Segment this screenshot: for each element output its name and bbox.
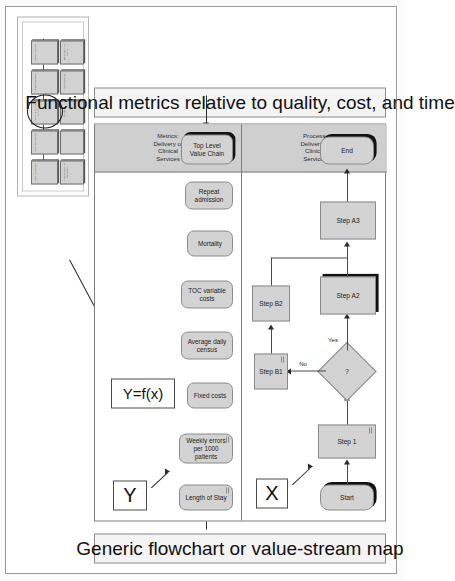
marker-y-text: Y	[123, 484, 136, 507]
connector-decision-no	[290, 371, 326, 372]
metric-pill-repeat-admission: Repeat admission	[185, 182, 233, 210]
metric-pill-toc-variable-costs: TOC variable costs	[181, 281, 233, 309]
flow-node-start: Start	[320, 485, 374, 511]
metric-label-line: patients	[195, 453, 217, 460]
metric-label-line: Value Chain	[190, 150, 224, 157]
inset-node-label: Human Resources	[63, 73, 66, 93]
inset-node: Talent Acquisition Control	[60, 41, 84, 65]
metric-label: Fixed costs	[194, 392, 226, 400]
metrics-caption-banner: Functional metrics relative to quality, …	[94, 88, 386, 118]
metric-label-line: Fixed costs	[194, 392, 226, 399]
metric-pill-average-daily-census: Average daily census	[181, 332, 233, 360]
flow-node-label: Step A2	[336, 292, 359, 300]
swimlane-container: Metrics: Delivery of Clinical Services P…	[94, 124, 386, 522]
connector-start-to-step1	[347, 463, 348, 485]
flow-node-step-b2: Step B2	[252, 286, 290, 322]
metric-pill-fixed-costs: Fixed costs	[187, 383, 233, 409]
connector-b1-to-b2	[271, 328, 272, 354]
metric-label: TOC variable costs	[188, 287, 226, 303]
inset-node-label: Manage and Collect	[34, 73, 37, 93]
metric-pill-mortality: Mortality	[187, 231, 233, 257]
metric-label: Average daily census	[188, 338, 227, 354]
inset-node-label: Assess Financials	[34, 43, 37, 63]
metric-label-line: per 1000	[193, 445, 218, 452]
inset-node-label: View of the Customer	[34, 163, 37, 183]
lane-label-line: Services	[156, 156, 180, 163]
connector-b2-merge-v	[271, 258, 347, 259]
metric-note-mark	[226, 437, 230, 443]
connector-b2-merge-h	[271, 258, 272, 286]
connector-step1-to-decision	[347, 399, 348, 425]
process-caption-text: Generic flowchart or value-stream map	[76, 538, 403, 560]
metric-pill-weekly-errors: Weekly errors per 1000 patients	[179, 434, 233, 464]
marker-y-box: Y	[113, 481, 147, 511]
flow-node-step-a3: Step A3	[320, 202, 376, 240]
metrics-caption-pointer	[206, 96, 207, 124]
flow-node-label: Start	[340, 494, 354, 502]
metrics-caption-text: Functional metrics relative to quality, …	[25, 92, 454, 114]
flow-node-label: End	[341, 147, 353, 155]
metric-label-line: Length of Stay	[185, 494, 226, 501]
lane-body-metrics: Y Y=f(x) Length of Stay	[95, 173, 241, 521]
inset-node-label: Select and Develop	[34, 133, 37, 153]
marker-relation-box: Y=f(x)	[111, 379, 175, 409]
marker-y-pointer	[151, 472, 168, 488]
flow-node-label: Step A3	[336, 217, 359, 225]
document-frame: View of the Customer Select and Develop …	[5, 6, 397, 574]
metric-pill-length-of-stay: Length of Stay	[179, 485, 233, 511]
metric-label-line: admission	[195, 196, 224, 203]
metric-label: Weekly errors per 1000 patients	[186, 437, 225, 461]
flow-node-label: Step B2	[259, 300, 282, 308]
flow-node-end: End	[320, 137, 374, 165]
metric-label-line: Average daily	[188, 338, 227, 345]
metric-label-line: Repeat	[199, 188, 220, 195]
lane-body-process: X Start Step 1	[242, 173, 387, 521]
flow-node-step-a2: Step A2	[320, 277, 376, 315]
marker-x-box: X	[256, 479, 288, 509]
flow-node-note-mark	[281, 357, 285, 363]
metric-pill-top-level-value-chain: Top Level Value Chain	[181, 135, 233, 165]
connector-a2-to-a3	[347, 245, 348, 277]
metric-label-line: census	[197, 346, 217, 353]
flow-node-step-1: Step 1	[318, 425, 376, 459]
flow-node-note-mark	[369, 428, 373, 434]
inset-node: Assess Financials	[31, 41, 58, 65]
inset-node: Financial Reporting and Analysis	[60, 161, 84, 185]
flow-node-label: ?	[345, 368, 349, 375]
lane-header-metrics-label: Metrics: Delivery of Clinical Services	[153, 133, 182, 163]
inset-node	[60, 131, 84, 155]
metric-label-line: costs	[200, 295, 215, 302]
metric-label-line: Top Level	[193, 142, 220, 149]
marker-x-pointer	[292, 468, 310, 485]
metric-note-mark	[226, 488, 230, 494]
metric-label-line: Weekly errors	[186, 437, 225, 444]
lane-label-line: Delivery of	[153, 140, 182, 147]
connector-a3-to-end	[347, 172, 348, 202]
inset-node-label: Financial Reporting and Analysis	[63, 163, 68, 183]
marker-relation-text: Y=f(x)	[123, 385, 163, 402]
flow-node-label: Step 1	[337, 438, 356, 446]
lane-label-line: Clinical	[158, 148, 178, 155]
inset-node-label: Talent Acquisition Control	[63, 43, 68, 63]
metric-label-line: TOC variable	[188, 287, 226, 294]
marker-y-arrowhead	[165, 469, 170, 475]
edge-label-no: No	[300, 360, 306, 368]
inset-node: View of the Customer	[31, 161, 58, 185]
marker-x-arrowhead	[308, 464, 313, 470]
metric-label: Mortality	[198, 240, 222, 248]
marker-x-text: X	[265, 482, 278, 505]
lane-label-line: Metrics:	[157, 133, 179, 140]
metric-label: Top Level Value Chain	[190, 142, 224, 158]
connector-arrowhead	[344, 169, 350, 174]
connector-arrowhead	[344, 460, 350, 465]
metric-label: Repeat admission	[195, 188, 224, 204]
connector-decision-yes	[347, 317, 348, 351]
rotated-diagram-canvas: View of the Customer Select and Develop …	[10, 11, 392, 570]
flow-node-step-b1: Step B1	[254, 354, 288, 390]
flow-node-label: Step B1	[259, 368, 282, 376]
connector-arrowhead	[268, 325, 274, 330]
flow-node-decision: ?	[317, 342, 376, 401]
process-caption-banner: Generic flowchart or value-stream map	[94, 534, 386, 564]
connector-arrowhead	[344, 242, 350, 247]
